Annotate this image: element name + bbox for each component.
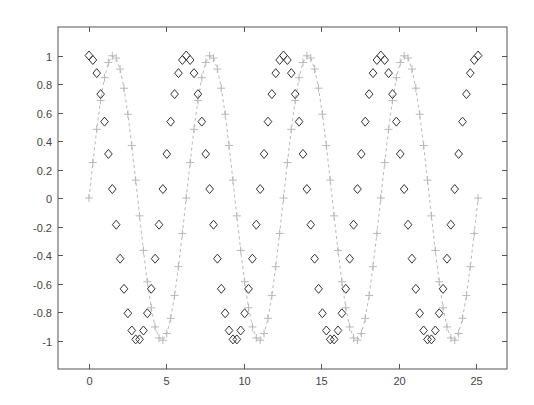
plot-area: 0510152025-1-0.8-0.6-0.4-0.200.20.40.60.… xyxy=(0,0,534,405)
plus-marker xyxy=(369,263,377,271)
diamond-marker xyxy=(358,149,366,158)
plus-marker xyxy=(416,110,424,118)
diamond-marker xyxy=(319,309,327,318)
diamond-marker xyxy=(214,254,222,263)
plus-marker xyxy=(120,84,128,92)
diamond-marker xyxy=(217,284,225,293)
plus-marker xyxy=(101,74,109,82)
diamond-marker xyxy=(350,220,358,229)
plus-marker xyxy=(443,323,451,331)
plus-marker xyxy=(124,110,132,118)
diamond-marker xyxy=(120,284,128,293)
diamond-marker xyxy=(108,185,116,194)
diamond-marker xyxy=(451,185,459,194)
plus-marker xyxy=(357,330,365,338)
plus-marker xyxy=(260,330,268,338)
plus-marker xyxy=(136,212,144,220)
diamond-marker xyxy=(101,117,109,126)
diamond-marker xyxy=(140,326,148,335)
y-tick-label: 1 xyxy=(46,51,52,63)
diamond-marker xyxy=(163,149,171,158)
plus-marker xyxy=(311,65,319,73)
plus-marker xyxy=(182,194,190,202)
plus-marker xyxy=(459,314,467,322)
diamond-marker xyxy=(416,309,424,318)
diamond-marker xyxy=(412,284,420,293)
diamond-marker xyxy=(400,185,408,194)
plus-marker xyxy=(381,159,389,167)
x-tick-label: 20 xyxy=(393,375,405,387)
plus-marker xyxy=(420,142,428,150)
plus-marker xyxy=(427,212,435,220)
diamond-marker xyxy=(466,69,474,78)
plus-marker xyxy=(233,212,241,220)
plus-marker xyxy=(350,334,358,342)
plus-marker xyxy=(287,125,295,133)
plus-marker xyxy=(194,96,202,104)
plus-marker xyxy=(128,142,136,150)
plus-marker xyxy=(252,334,260,342)
diamond-marker xyxy=(260,149,268,158)
plus-marker xyxy=(388,96,396,104)
plus-marker xyxy=(229,176,237,184)
y-tick-label: 0.2 xyxy=(37,165,52,177)
plus-marker xyxy=(206,52,214,60)
plus-marker xyxy=(241,278,249,286)
plus-marker xyxy=(404,54,412,62)
plus-marker xyxy=(346,323,354,331)
diamond-marker xyxy=(264,117,272,126)
plus-marker xyxy=(373,229,381,237)
diamond-marker xyxy=(241,309,249,318)
plus-marker xyxy=(143,278,151,286)
plus-marker xyxy=(396,58,404,66)
diamond-marker xyxy=(435,309,443,318)
plus-marker xyxy=(85,194,93,202)
diamond-marker xyxy=(124,309,132,318)
plus-marker xyxy=(89,159,97,167)
diamond-marker xyxy=(252,220,260,229)
diamond-marker xyxy=(237,326,245,335)
diamond-marker xyxy=(354,185,362,194)
plus-marker xyxy=(470,229,478,237)
diamond-marker xyxy=(373,55,381,64)
plus-marker xyxy=(171,292,179,300)
plus-marker xyxy=(93,125,101,133)
diamond-marker xyxy=(463,90,471,99)
y-tick-label: 0.6 xyxy=(37,108,52,120)
diamond-marker xyxy=(112,220,120,229)
diamond-marker xyxy=(303,185,311,194)
plus-marker xyxy=(455,330,463,338)
diamond-marker xyxy=(276,55,284,64)
plus-marker xyxy=(167,314,175,322)
plus-marker xyxy=(462,292,470,300)
diamond-marker xyxy=(179,55,187,64)
plus-marker xyxy=(198,74,206,82)
diamond-marker xyxy=(443,254,451,263)
diamond-marker xyxy=(338,309,346,318)
diamond-marker xyxy=(249,254,257,263)
diamond-marker xyxy=(186,55,194,64)
plus-marker xyxy=(318,110,326,118)
diamond-marker xyxy=(365,90,373,99)
plus-marker xyxy=(237,246,245,254)
diamond-marker xyxy=(334,326,342,335)
plus-marker xyxy=(451,336,459,344)
diamond-marker xyxy=(159,185,167,194)
diamond-marker xyxy=(369,69,377,78)
plus-marker xyxy=(108,52,116,60)
x-tick-label: 10 xyxy=(238,375,250,387)
diamond-marker xyxy=(198,117,206,126)
plus-marker xyxy=(466,263,474,271)
plus-marker xyxy=(315,84,323,92)
plus-marker xyxy=(268,292,276,300)
diamond-marker xyxy=(393,117,401,126)
diamond-marker xyxy=(381,55,389,64)
diamond-marker xyxy=(272,69,280,78)
plus-marker xyxy=(163,330,171,338)
diamond-marker xyxy=(307,220,315,229)
diamond-marker xyxy=(295,117,303,126)
plus-marker xyxy=(213,65,221,73)
plus-marker xyxy=(104,58,112,66)
diamond-marker xyxy=(311,254,319,263)
x-tick-label: 5 xyxy=(163,375,169,387)
